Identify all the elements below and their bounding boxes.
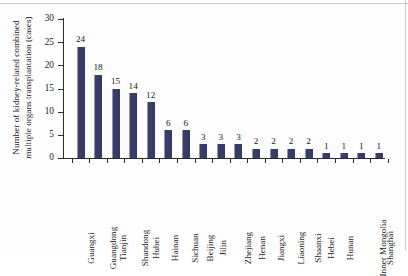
bar-value-label: 12 [138,91,164,100]
bar-value-label: 18 [85,63,111,72]
x-axis-tick [212,159,213,163]
bar [305,149,313,158]
x-axis-category-label: Hunan [338,164,349,248]
bar [217,144,225,158]
y-axis-tick [58,135,63,136]
bar [77,47,85,158]
y-axis-line [63,18,64,159]
bar [322,153,330,158]
x-axis-tick [300,159,301,163]
bar [375,153,383,158]
y-axis-tick [58,19,63,20]
x-axis-category-label: Tianjin [110,164,121,248]
x-axis-tick [124,159,125,163]
y-axis-tick-label: 30 [14,14,54,23]
scan-edge-right-rule [405,0,406,250]
x-axis-category-label-text: Shanghai [385,231,396,265]
x-axis-tick [317,159,318,163]
x-axis-category-label: Jilin [215,164,226,248]
bar-value-label: 6 [173,119,199,128]
scan-edge-top-rule [0,3,408,4]
y-axis-tick-label: 15 [14,84,54,93]
x-axis-category-label-text: Jilin [218,240,229,256]
bar [147,102,155,158]
x-axis-tick [89,159,90,163]
x-axis-category-label: Guangxi [75,164,86,248]
bar [340,153,348,158]
x-axis-category-label-text: Henan [257,236,268,260]
x-axis-category-label: Shaanxi [303,164,314,248]
x-axis-category-label-text: Hunan [345,236,356,260]
x-axis-category-label: Guangdong [93,164,104,248]
x-axis-tick [335,159,336,163]
x-axis-tick [282,159,283,163]
x-axis-tick [230,159,231,163]
bar-value-label: 24 [68,35,94,44]
bar [199,144,207,158]
y-axis-tick-label: 10 [14,107,54,116]
x-axis-category-label: Jiangxi [268,164,279,248]
x-axis-category-label: Hainan [163,164,174,248]
bar [357,153,365,158]
bar [112,89,120,159]
x-axis-category-label: Hubei [145,164,156,248]
y-axis-tick [58,158,63,159]
y-axis-tick-label: 5 [14,130,54,139]
bar [94,75,102,158]
bar [234,144,242,158]
x-axis-tick [72,159,73,163]
y-axis-tick [58,42,63,43]
bar [182,130,190,158]
x-axis-category-label: Beijing [198,164,209,248]
x-axis-tick [265,159,266,163]
x-axis-tick [177,159,178,163]
x-axis-tick [107,159,108,163]
x-axis-category-label-text: Hubei [151,237,162,259]
x-axis-tick [247,159,248,163]
y-axis-tick-label: 25 [14,38,54,47]
x-axis-category-label: Sichuan [180,164,191,248]
x-axis-category-label: Liaoning [286,164,297,248]
x-axis-category-label: Zhejiang [233,164,244,248]
x-axis-tick [353,159,354,163]
bar-value-label: 14 [120,82,146,91]
x-axis-tick [159,159,160,163]
x-axis-tick [195,159,196,163]
x-axis-line [63,158,385,159]
y-axis-tick [58,89,63,90]
bar [287,149,295,158]
x-axis-category-label-text: Hebei [326,237,337,259]
x-axis-category-label: Hebei [321,164,332,248]
y-axis-tick [58,65,63,66]
y-axis-tick-label: 20 [14,61,54,70]
x-axis-category-label: Shandong [128,164,139,248]
x-axis-category-label: Henan [251,164,262,248]
x-axis-category-label: Inner Mongolia [356,164,367,248]
x-axis-tick [370,159,371,163]
y-axis-tick-label: 0 [14,153,54,162]
bar [252,149,260,158]
x-axis-tick [142,159,143,163]
bar [129,93,137,158]
x-axis-category-label: Shanghai [373,164,384,248]
y-axis-tick [58,112,63,113]
bar [270,149,278,158]
bar [164,130,172,158]
x-axis-tick [388,159,389,163]
bar-value-label: 1 [366,142,392,151]
